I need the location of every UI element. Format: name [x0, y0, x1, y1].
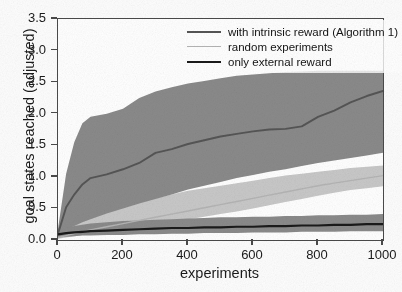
- legend-label: with intrinsic reward (Algorithm 1): [228, 26, 398, 38]
- y-tick-label: 0.5: [6, 199, 46, 214]
- legend-entry-external-reward: only external reward: [187, 54, 398, 69]
- x-tick: [56, 239, 57, 245]
- x-tick-label: 200: [99, 247, 145, 262]
- x-tick-label: 1000: [359, 247, 402, 262]
- y-tick-label: 3.5: [6, 10, 46, 25]
- legend-label: random experiments: [228, 41, 333, 53]
- y-tick-label: 1.0: [6, 168, 46, 183]
- x-tick: [186, 239, 187, 245]
- figure-chart: goal states reached (adjusted) 0.00.51.0…: [0, 0, 402, 292]
- x-tick-label: 600: [229, 247, 275, 262]
- y-tick-label: 0.0: [6, 231, 46, 246]
- x-tick: [316, 239, 317, 245]
- legend-swatch-line-icon: [187, 61, 221, 63]
- y-tick-label: 2.0: [6, 105, 46, 120]
- legend-swatch-line-icon: [187, 46, 221, 47]
- x-tick-label: 800: [294, 247, 340, 262]
- x-tick: [121, 239, 122, 245]
- y-tick-label: 2.5: [6, 73, 46, 88]
- x-tick: [251, 239, 252, 245]
- legend-entry-intrinsic-reward: with intrinsic reward (Algorithm 1): [187, 24, 398, 39]
- legend-entry-random-experiments: random experiments: [187, 39, 398, 54]
- legend-label: only external reward: [228, 56, 332, 68]
- y-tick-label: 1.5: [6, 136, 46, 151]
- y-tick-label: 3.0: [6, 42, 46, 57]
- x-tick-label: 400: [164, 247, 210, 262]
- x-axis-label: experiments: [57, 265, 382, 281]
- legend-swatch-line-icon: [187, 31, 221, 33]
- chart-legend: with intrinsic reward (Algorithm 1) rand…: [183, 20, 402, 73]
- x-tick-label: 0: [34, 247, 80, 262]
- x-tick: [381, 239, 382, 245]
